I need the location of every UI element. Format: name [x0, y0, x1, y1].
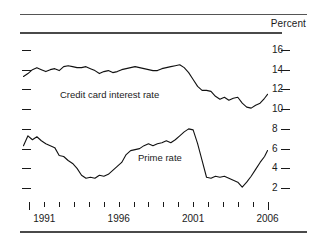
y-tick-label-16: 16 [272, 45, 294, 55]
x-tick-2001 [193, 202, 194, 207]
x-tick-1992 [59, 202, 60, 207]
y-tick-label-8: 8 [272, 124, 294, 134]
x-tick-1993 [74, 202, 75, 207]
series-lines [22, 40, 272, 198]
y-tick-left-14 [22, 70, 31, 71]
x-tick-1997 [134, 202, 135, 207]
x-axis [22, 202, 273, 210]
x-tick-2004 [238, 202, 239, 207]
plot-area [22, 40, 272, 198]
y-tick-label-10: 10 [272, 104, 294, 114]
y-tick-label-4: 4 [272, 163, 294, 173]
y-tick-left-6 [22, 149, 31, 150]
x-tick-2006 [268, 202, 269, 210]
x-tick-1996 [119, 202, 120, 207]
y-tick-label-12: 12 [272, 84, 294, 94]
y-tick-label-14: 14 [272, 65, 294, 75]
y-tick-label-2: 2 [272, 183, 294, 193]
x-tick-1994 [89, 202, 90, 207]
x-tick-1999 [163, 202, 164, 207]
x-tick-label-1991: 1991 [24, 213, 64, 224]
x-tick-1991 [44, 202, 45, 207]
y-tick-left-10 [22, 109, 31, 110]
x-tick-2005 [253, 202, 254, 207]
x-tick-2002 [208, 202, 209, 207]
x-tick-1998 [148, 202, 149, 207]
y-tick-left-2 [22, 188, 31, 189]
x-tick-label-2006: 2006 [248, 213, 288, 224]
x-tick-label-1996: 1996 [99, 213, 139, 224]
y-tick-label-6: 6 [272, 144, 294, 154]
series-path-credit-card [23, 65, 267, 108]
x-tick-2000 [178, 202, 179, 207]
x-tick-1990 [29, 202, 30, 210]
x-tick-2003 [223, 202, 224, 207]
y-tick-left-4 [22, 168, 31, 169]
series-label-credit-card: Credit card interest rate [59, 89, 160, 100]
header-rule-top [20, 14, 307, 15]
y-tick-left-12 [22, 89, 31, 90]
header-rule-bottom [20, 32, 282, 34]
x-tick-label-2001: 2001 [173, 213, 213, 224]
series-label-prime-rate: Prime rate [137, 152, 183, 163]
y-tick-left-16 [22, 50, 31, 51]
footer-rule [20, 231, 307, 233]
unit-label: Percent [271, 16, 306, 31]
x-tick-1995 [104, 202, 105, 207]
y-tick-left-8 [22, 129, 31, 130]
figure-chart: Percent 161412108642 1991199620012006 Cr… [0, 0, 320, 244]
